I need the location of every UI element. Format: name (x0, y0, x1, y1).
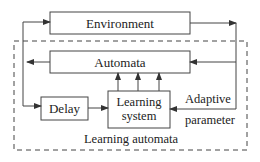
parameter-label: parameter (185, 113, 236, 127)
environment-label: Environment (86, 16, 154, 31)
learning-system-label-2: system (122, 109, 157, 123)
environment-block: Environment (50, 12, 190, 34)
learning-system-block: Learning system (108, 91, 170, 128)
automata-block: Automata (50, 51, 190, 73)
learning-to-automata-arrows (118, 73, 159, 91)
adaptive-label: Adaptive (185, 92, 231, 106)
delay-block: Delay (41, 97, 88, 120)
learning-automata-diagram: Environment Automata Delay Learning syst… (0, 0, 260, 162)
delay-label: Delay (49, 101, 81, 116)
left-feedback-loop (23, 22, 50, 106)
learning-automata-group-label: Learning automata (84, 132, 179, 146)
learning-system-label-1: Learning (116, 95, 162, 109)
automata-label: Automata (94, 55, 145, 70)
